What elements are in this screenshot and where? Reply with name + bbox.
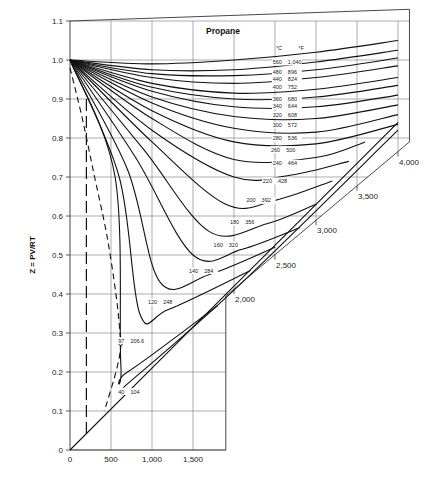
- celsius-header: °C: [276, 45, 282, 51]
- x-tick-label-diagonal: 3,500: [358, 192, 379, 201]
- isotherm-label-fahrenheit: 824: [288, 76, 297, 82]
- isotherm-label-celsius: 220: [263, 178, 272, 184]
- isotherm-label-celsius: 280: [273, 135, 282, 141]
- isotherm-label-celsius: 360: [273, 96, 282, 102]
- x-tick-label: 1,000: [142, 455, 163, 464]
- isotherm-label-fahrenheit: 608: [288, 112, 297, 118]
- y-tick-label: 0.1: [52, 407, 64, 416]
- isotherm-label-fahrenheit: 752: [288, 84, 297, 90]
- y-tick-label: 0.7: [52, 173, 64, 182]
- chart-title: Propane: [206, 26, 240, 36]
- isotherm-label-fahrenheit: 464: [288, 160, 297, 166]
- isotherm-label-celsius: 240: [273, 160, 282, 166]
- isotherm-label-celsius: 440: [273, 76, 282, 82]
- isotherm-label-fahrenheit: 392: [262, 197, 271, 203]
- isotherm-label-fahrenheit: 500: [286, 147, 295, 153]
- grid: [70, 21, 409, 450]
- isotherm-label-celsius: 300: [273, 122, 282, 128]
- isotherm-label-fahrenheit: 1,040: [288, 59, 302, 65]
- compressibility-chart: 5601,04048089644082440075236068034064432…: [0, 0, 424, 482]
- isotherm-label-fahrenheit: 320: [229, 242, 238, 248]
- x-tick-label: 500: [104, 455, 118, 464]
- x-tick-label-diagonal: 4,000: [399, 158, 420, 167]
- y-tick-label: 0.9: [52, 95, 64, 104]
- isotherm-label-celsius: 340: [273, 103, 282, 109]
- isotherm-label-fahrenheit: 428: [278, 178, 287, 184]
- isotherm-label-fahrenheit: 284: [204, 268, 213, 274]
- saturation-curve: [70, 68, 121, 411]
- isotherm-label-celsius: 560: [273, 59, 282, 65]
- y-tick-label: 0.3: [52, 329, 64, 338]
- isotherm-label-celsius: 200: [246, 197, 255, 203]
- y-tick-label: 0.8: [52, 134, 64, 143]
- isotherm-label-fahrenheit: 104: [130, 389, 139, 395]
- x-tick-label-diagonal: 3,000: [317, 226, 338, 235]
- x-tick-label-diagonal: 2,500: [276, 261, 297, 270]
- isotherm-label-fahrenheit: 572: [288, 122, 297, 128]
- isotherm-label-celsius: 480: [273, 69, 282, 75]
- isotherm-label-fahrenheit: 644: [288, 103, 297, 109]
- isotherm-label-fahrenheit: 356: [245, 219, 254, 225]
- y-axis-label: Z = PV/RT: [28, 236, 37, 274]
- isotherm-label-fahrenheit: 680: [288, 96, 297, 102]
- y-tick-label: 0: [59, 446, 64, 455]
- isotherm-label-celsius: 400: [273, 84, 282, 90]
- y-tick-label: 0.5: [52, 251, 64, 260]
- isotherm-label-celsius: 260: [271, 147, 280, 153]
- x-tick-label: 0: [68, 455, 73, 464]
- y-tick-label: 1.0: [52, 56, 64, 65]
- fahrenheit-header: °F: [298, 45, 304, 51]
- y-tick-label: 1.1: [52, 17, 64, 26]
- isotherm-label-fahrenheit: 896: [288, 69, 297, 75]
- isotherm-label-fahrenheit: 248: [163, 299, 172, 305]
- y-tick-label: 0.2: [52, 368, 64, 377]
- isotherm-label-fahrenheit: 206.6: [130, 338, 144, 344]
- isotherm-label-celsius: 320: [273, 112, 282, 118]
- isotherm-label-celsius: 160: [214, 242, 223, 248]
- isotherm-label-celsius: 140: [189, 268, 198, 274]
- isotherm-label-celsius: 97: [118, 338, 124, 344]
- isotherm-label-celsius: 120: [148, 299, 157, 305]
- y-tick-label: 0.6: [52, 212, 64, 221]
- x-tick-label: 1,500: [183, 455, 204, 464]
- isotherm-label-fahrenheit: 536: [288, 135, 297, 141]
- y-tick-label: 0.4: [52, 290, 64, 299]
- isotherm-label-celsius: 40: [118, 389, 124, 395]
- x-tick-label-diagonal: 2,000: [235, 295, 256, 304]
- isotherm-label-celsius: 180: [230, 219, 239, 225]
